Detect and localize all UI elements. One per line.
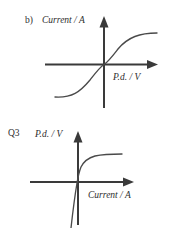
figure-b-part-label: b) xyxy=(25,15,33,26)
figure-q3-x-axis-label: Current / A xyxy=(88,190,131,200)
figure-b-x-axis-label: P.d. / V xyxy=(112,72,141,82)
figure-q3-y-axis-label: P.d. / V xyxy=(34,129,63,139)
figure-q3-x-axis-arrowhead xyxy=(123,178,134,187)
figure-q3-y-axis-arrowhead xyxy=(74,131,83,143)
figure-b-group: b) Current / A P.d. / V xyxy=(25,15,158,108)
graphs-canvas: b) Current / A P.d. / V Q3 P.d. / V xyxy=(0,0,173,228)
physics-graphs-figure: b) Current / A P.d. / V Q3 P.d. / V xyxy=(0,0,173,228)
figure-b-x-axis-arrowhead xyxy=(147,60,158,69)
figure-q3-group: Q3 P.d. / V Current / A xyxy=(8,128,134,228)
figure-b-y-axis-label: Current / A xyxy=(42,15,85,25)
figure-q3-part-label: Q3 xyxy=(8,128,20,138)
figure-b-y-axis-arrowhead xyxy=(100,16,109,28)
